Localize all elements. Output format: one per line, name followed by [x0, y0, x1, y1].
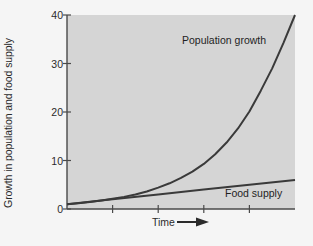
y-axis-label: Growth in population and food supply	[0, 0, 16, 246]
y-tick-label-0: 0	[41, 204, 63, 214]
annotation-food-supply: Food supply	[225, 187, 282, 199]
y-tick-label-30: 30	[41, 59, 63, 69]
annotation-population-growth: Population growth	[182, 34, 266, 46]
arrow-right-icon	[176, 216, 210, 228]
y-tick-label-10: 10	[41, 156, 63, 166]
x-axis-label: Time	[152, 216, 175, 228]
y-tick-label-20: 20	[41, 107, 63, 117]
y-axis-tick-labels: 40 30 20 10 0	[40, 0, 63, 246]
x-axis-label-group: Time	[67, 216, 295, 228]
chart-figure: Growth in population and food supply 40 …	[0, 0, 313, 246]
y-tick-label-40: 40	[41, 10, 63, 20]
